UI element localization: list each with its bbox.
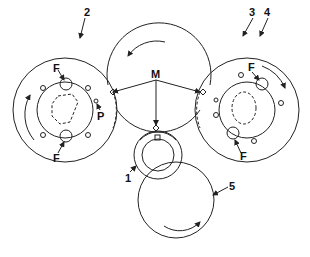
cylinder-2	[13, 18, 117, 162]
label-f-4-top: F	[248, 61, 255, 73]
label-cyl2: 2	[84, 6, 90, 18]
label-cyl4: 4	[264, 6, 271, 18]
m-pointers	[110, 80, 206, 131]
cylinder-4	[195, 18, 299, 162]
label-cyl3: 3	[249, 6, 255, 18]
label-f-2-top: F	[53, 62, 60, 74]
cylinder-5	[138, 162, 228, 238]
cylinder-1	[130, 131, 182, 179]
label-cyl5: 5	[229, 180, 235, 192]
label-p: P	[97, 110, 104, 122]
label-m: M	[151, 68, 160, 80]
label-f-4-bottom: F	[240, 150, 247, 162]
diagram-canvas: 2 3 4 1 5 M P F F F F	[0, 0, 310, 257]
label-cyl1: 1	[125, 172, 131, 184]
label-f-2-bottom: F	[53, 152, 60, 164]
cylinder-3	[107, 18, 253, 132]
